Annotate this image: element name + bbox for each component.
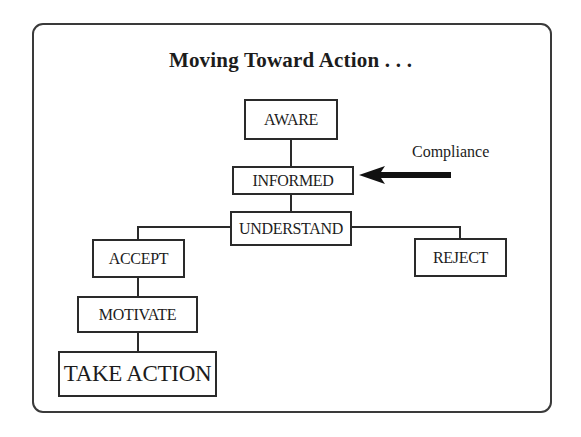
node-take-action: TAKE ACTION (58, 351, 217, 397)
compliance-label: Compliance (412, 143, 489, 161)
connector-understand-accept-h (137, 226, 231, 228)
diagram-title: Moving Toward Action . . . (0, 48, 581, 73)
connector-motivate-take-action (137, 332, 139, 352)
node-understand: UNDERSTAND (230, 211, 352, 246)
node-motivate: MOTIVATE (77, 296, 198, 333)
node-accept: ACCEPT (92, 239, 185, 278)
left-arrow-icon (355, 164, 455, 186)
connector-aware-informed (290, 139, 292, 167)
node-informed: INFORMED (232, 166, 354, 195)
node-reject: REJECT (414, 238, 507, 277)
connector-understand-accept-v (137, 226, 139, 240)
connector-accept-motivate (137, 277, 139, 297)
connector-understand-reject-h (350, 226, 461, 228)
connector-informed-understand (290, 194, 292, 212)
node-aware: AWARE (244, 99, 338, 140)
